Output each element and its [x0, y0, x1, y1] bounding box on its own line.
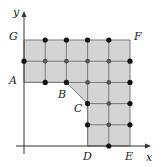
coordinate-diagram: GFABCDExy [0, 0, 165, 167]
boundary-point [127, 122, 132, 127]
x-axis-arrow-icon [145, 144, 151, 149]
interior-point [106, 80, 111, 85]
label-y: y [12, 6, 20, 19]
boundary-point [106, 37, 111, 42]
boundary-point [127, 101, 132, 106]
shaded-region [24, 40, 130, 146]
boundary-point [43, 80, 48, 85]
label-d: D [82, 150, 92, 163]
label-b: B [57, 88, 66, 101]
label-e: E [124, 150, 133, 163]
label-g: G [9, 30, 18, 43]
interior-point [106, 101, 111, 106]
label-x: x [146, 151, 153, 164]
interior-point [85, 80, 90, 85]
boundary-point [85, 37, 90, 42]
interior-point [106, 122, 111, 127]
label-a: A [8, 74, 17, 87]
interior-point [85, 59, 90, 64]
boundary-point [85, 101, 90, 106]
interior-point [43, 59, 48, 64]
label-f: F [133, 30, 142, 43]
boundary-point [43, 37, 48, 42]
boundary-point [127, 80, 132, 85]
boundary-point [127, 59, 132, 64]
boundary-point [64, 80, 69, 85]
boundary-point [21, 59, 26, 64]
interior-point [64, 59, 69, 64]
y-axis-arrow-icon [22, 11, 27, 17]
region-polygon [24, 40, 130, 146]
boundary-point [64, 37, 69, 42]
label-c: C [74, 102, 83, 115]
boundary-point [85, 122, 90, 127]
boundary-point [106, 143, 111, 148]
interior-point [106, 59, 111, 64]
